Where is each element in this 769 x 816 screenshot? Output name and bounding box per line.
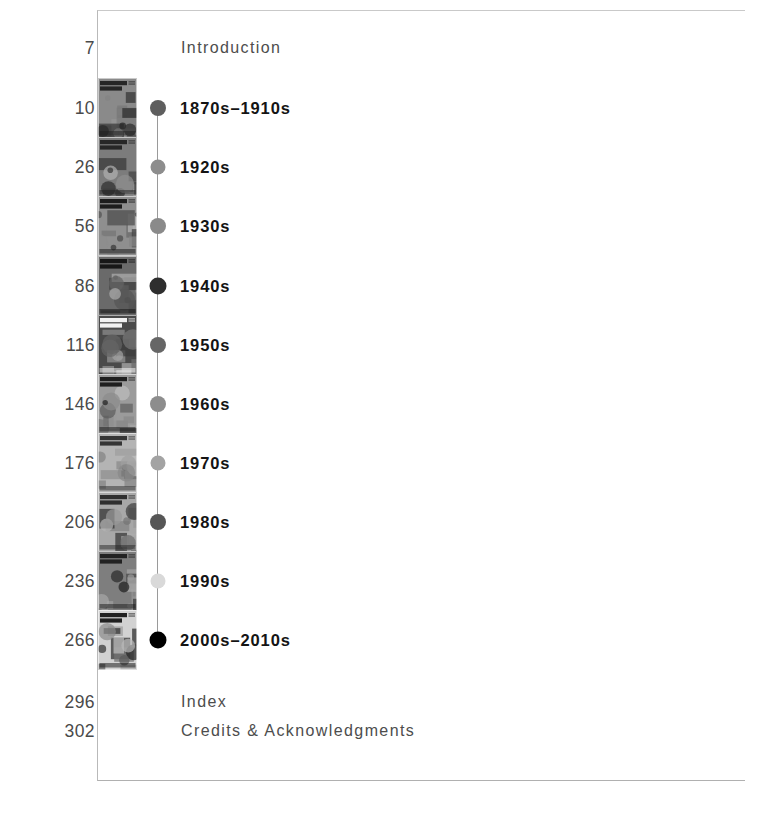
page-number: 266 [0,630,95,651]
magazine-cover-thumbnail[interactable] [98,374,137,434]
timeline-dot[interactable] [150,160,165,175]
timeline-dot[interactable] [150,100,166,116]
timeline-axis-line [157,104,158,634]
page-number: 86 [0,276,95,297]
timeline-dot[interactable] [150,337,166,353]
page-number: 236 [0,571,95,592]
timeline-dot[interactable] [150,218,166,234]
magazine-cover-thumbnail[interactable] [98,610,137,670]
magazine-cover-thumbnail[interactable] [98,137,137,197]
magazine-cover-thumbnail[interactable] [98,433,137,493]
decade-label[interactable]: 1940s [180,277,230,296]
page-number: 296 [0,692,95,713]
timeline-dot[interactable] [150,574,165,589]
magazine-cover-thumbnail[interactable] [98,551,137,611]
timeline-dot[interactable] [149,278,166,295]
decade-label[interactable]: 1920s [180,158,230,177]
decade-label[interactable]: 1960s [180,395,230,414]
magazine-cover-thumbnail[interactable] [98,256,137,316]
section-label[interactable]: Credits & Acknowledgments [181,722,415,740]
timeline-dot[interactable] [150,514,166,530]
decade-label[interactable]: 1950s [180,336,230,355]
magazine-cover-thumbnail[interactable] [98,315,137,375]
section-label[interactable]: Index [181,693,227,711]
decade-label[interactable]: 1970s [180,454,230,473]
section-label[interactable]: Introduction [181,39,281,57]
page-number: 302 [0,721,95,742]
page-number: 56 [0,216,95,237]
page-number: 206 [0,512,95,533]
timeline-dot[interactable] [150,456,165,471]
page-number: 10 [0,98,95,119]
timeline-dot[interactable] [149,632,166,649]
decade-label[interactable]: 1980s [180,513,230,532]
page-number: 26 [0,157,95,178]
magazine-cover-thumbnail[interactable] [98,78,137,138]
decade-label[interactable]: 1930s [180,217,230,236]
magazine-cover-thumbnail[interactable] [98,492,137,552]
magazine-cover-thumbnail[interactable] [98,196,137,256]
page-number: 176 [0,453,95,474]
page-number: 116 [0,335,95,356]
timeline-dot[interactable] [150,396,166,412]
page-number: 146 [0,394,95,415]
decade-label[interactable]: 2000s–2010s [180,631,291,650]
decade-label[interactable]: 1990s [180,572,230,591]
page-number: 7 [0,38,95,59]
decade-label[interactable]: 1870s–1910s [180,99,291,118]
